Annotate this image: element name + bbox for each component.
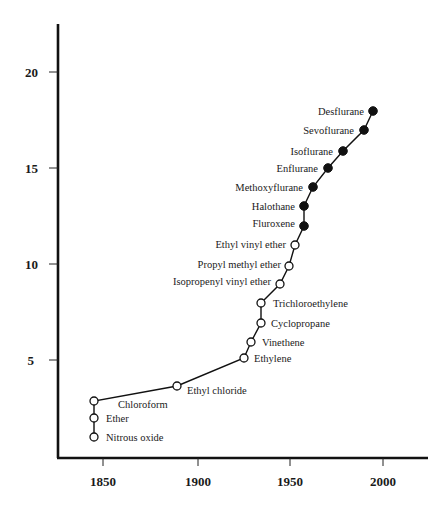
point-label-isoflurane: Isoflurane	[290, 146, 333, 157]
point-marker-filled	[360, 126, 369, 135]
point-marker-filled	[300, 202, 309, 211]
x-tick-label: 1850	[90, 474, 116, 489]
point-marker-filled	[300, 222, 309, 231]
point-label-methoxyflurane: Methoxyflurane	[235, 182, 303, 193]
point-label-sevoflurane: Sevoflurane	[303, 125, 354, 136]
point-marker-filled	[339, 147, 348, 156]
point-label-ether: Ether	[106, 413, 129, 424]
x-tick-label: 1950	[277, 474, 303, 489]
point-label-enflurane: Enflurane	[277, 163, 319, 174]
x-ticks: 1850 1900 1950 2000	[90, 458, 396, 489]
point-label-chloroform: Chloroform	[118, 399, 168, 410]
y-tick-label: 15	[25, 161, 39, 176]
y-ticks: 5 10 15 20	[25, 65, 58, 368]
point-marker-filled	[324, 164, 333, 173]
point-marker-open	[90, 433, 98, 441]
point-label-ethyl-vinyl-ether: Ethyl vinyl ether	[215, 239, 286, 250]
point-label-isopropenyl-vinyl-ether: Isopropenyl vinyl ether	[173, 276, 271, 287]
point-marker-open	[247, 338, 255, 346]
point-marker-open	[291, 241, 299, 249]
chart: 5 10 15 20 1850 1900 1950 2000	[0, 0, 447, 514]
x-tick-label: 1900	[185, 474, 211, 489]
y-tick-label: 10	[25, 257, 38, 272]
point-label-ethyl-chloride: Ethyl chloride	[187, 385, 247, 396]
point-marker-open	[276, 280, 284, 288]
point-label-cyclopropane: Cyclopropane	[271, 318, 330, 329]
point-marker-open	[257, 299, 265, 307]
y-tick-label: 20	[25, 65, 38, 80]
point-marker-open	[90, 397, 98, 405]
point-marker-open	[240, 354, 248, 362]
point-marker-filled	[309, 183, 318, 192]
point-label-trichloroethylene: Trichloroethylene	[273, 298, 348, 309]
point-marker-open	[285, 262, 293, 270]
point-marker-open	[173, 382, 181, 390]
point-marker-filled	[369, 107, 378, 116]
point-marker-open	[257, 319, 265, 327]
x-tick-label: 2000	[370, 474, 396, 489]
point-label-nitrous-oxide: Nitrous oxide	[106, 432, 164, 443]
point-label-halothane: Halothane	[252, 201, 295, 212]
point-marker-open	[90, 414, 98, 422]
point-label-fluroxene: Fluroxene	[252, 218, 295, 229]
point-label-desflurane: Desflurane	[318, 106, 364, 117]
point-label-ethylene: Ethylene	[254, 353, 292, 364]
y-tick-label: 5	[28, 353, 35, 368]
point-label-propyl-methyl-ether: Propyl methyl ether	[198, 259, 282, 270]
point-label-vinethene: Vinethene	[262, 337, 305, 348]
